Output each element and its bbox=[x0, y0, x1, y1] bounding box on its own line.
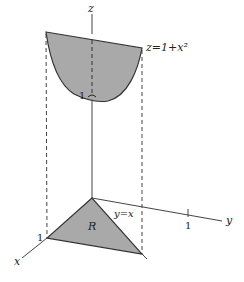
y-axis bbox=[92, 198, 222, 221]
surface-min-label: 1 bbox=[79, 90, 85, 101]
x-axis-label: x bbox=[14, 255, 21, 268]
region-surface-diagram: z y x z=1+x² 1 R y=x 1 1 bbox=[0, 0, 244, 282]
y-axis-label: y bbox=[225, 214, 233, 227]
z-axis-label: z bbox=[87, 2, 94, 15]
boundary-label: y=x bbox=[113, 208, 134, 219]
region-label: R bbox=[87, 220, 96, 233]
surface-equation-label: z=1+x² bbox=[145, 41, 188, 54]
x-axis-extension bbox=[142, 254, 147, 259]
y-tick-label: 1 bbox=[185, 220, 191, 231]
surface-patch bbox=[46, 32, 142, 102]
x-tick-label: 1 bbox=[37, 232, 43, 243]
projection-line-left bbox=[46, 34, 47, 238]
